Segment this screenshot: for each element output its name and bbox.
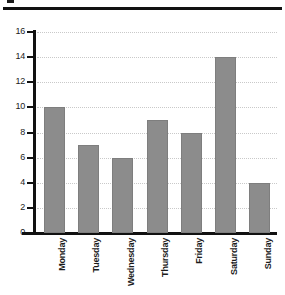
x-axis-label: Sunday [264, 238, 273, 269]
x-axis-label: Wednesday [127, 238, 136, 286]
x-axis-label: Friday [195, 238, 204, 264]
x-axis-label: Monday [58, 238, 67, 271]
bar[interactable] [147, 120, 168, 233]
x-axis-label: Tuesday [92, 238, 101, 272]
bar[interactable] [112, 158, 133, 233]
bar[interactable] [249, 183, 270, 233]
bar[interactable] [215, 57, 236, 233]
bar[interactable] [181, 133, 202, 234]
plot-area: 0246810121416 MondayTuesdayWednesdayThur… [0, 0, 285, 295]
x-axis-label: Saturday [230, 238, 239, 275]
bar[interactable] [44, 107, 65, 233]
bars [0, 0, 285, 295]
x-axis-label: Thursday [161, 238, 170, 277]
bar-chart: 0246810121416 MondayTuesdayWednesdayThur… [0, 0, 285, 295]
bar[interactable] [78, 145, 99, 233]
